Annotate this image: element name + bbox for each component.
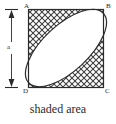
figure-caption: shaded area: [0, 102, 116, 117]
shaded-region: [28, 9, 104, 88]
vertex-label-d: D: [23, 88, 28, 95]
vertex-label-b: B: [106, 3, 111, 10]
vertex-label-c: C: [105, 88, 110, 95]
geometry-figure: A B C D a shaded area: [0, 0, 116, 124]
dimension-label-a: a: [7, 43, 10, 51]
vertex-label-a: A: [24, 3, 29, 10]
